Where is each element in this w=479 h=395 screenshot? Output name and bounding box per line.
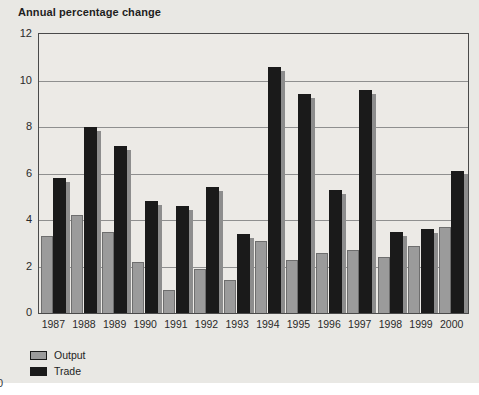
trade-bar-1995: [298, 94, 311, 313]
trade-bar-1998: [390, 232, 403, 313]
output-bar-2000: [439, 227, 451, 313]
trade-bar-1993: [237, 234, 250, 313]
plot-area: [38, 33, 469, 314]
trade-bar-1989: [114, 146, 127, 313]
legend: Output Trade: [30, 349, 86, 381]
chart-title: Annual percentage change: [18, 6, 161, 18]
y-tick-label-6: 6: [4, 167, 32, 179]
trade-bar-shadow: [189, 210, 193, 313]
trade-swatch-icon: [30, 367, 47, 376]
x-tick-label-2000: 2000: [436, 318, 468, 330]
output-bar-1987: [41, 236, 53, 313]
x-tick-label-1997: 1997: [344, 318, 376, 330]
output-bar-1988: [71, 215, 83, 313]
trade-bar-shadow: [342, 194, 346, 313]
trade-bar-shadow: [372, 94, 376, 313]
trade-bar-1997: [359, 90, 372, 313]
y-tick-label-10: 10: [4, 74, 32, 86]
output-swatch-icon: [30, 351, 47, 360]
output-bar-1997: [347, 250, 359, 313]
gridline-8: [39, 127, 468, 128]
trade-bar-1992: [206, 187, 219, 313]
trade-bar-1994: [268, 67, 281, 313]
x-tick-label-1988: 1988: [68, 318, 100, 330]
trade-bar-shadow: [250, 238, 254, 313]
y-tick-label-4: 4: [4, 213, 32, 225]
legend-label-output: Output: [54, 349, 86, 361]
gridline-6: [39, 174, 468, 175]
trade-bar-1987: [53, 178, 66, 313]
trade-bar-shadow: [158, 205, 162, 313]
legend-label-trade: Trade: [54, 365, 81, 377]
y-tick-label-0: 0: [4, 306, 32, 318]
trade-bar-shadow: [281, 71, 285, 313]
x-tick-label-1996: 1996: [313, 318, 345, 330]
x-tick-label-1987: 1987: [37, 318, 69, 330]
x-tick-label-1998: 1998: [374, 318, 406, 330]
trade-bar-1999: [421, 229, 434, 313]
output-bar-1999: [408, 246, 420, 313]
trade-bar-shadow: [127, 150, 131, 313]
trade-bar-shadow: [219, 191, 223, 313]
trade-bar-1988: [84, 127, 97, 313]
x-tick-label-1991: 1991: [160, 318, 192, 330]
x-tick-label-1989: 1989: [99, 318, 131, 330]
x-tick-label-1992: 1992: [191, 318, 223, 330]
output-bar-1990: [132, 262, 144, 313]
legend-item-output: Output: [30, 349, 86, 361]
output-bar-1998: [378, 257, 390, 313]
page-number-artifact: 0: [0, 377, 3, 389]
output-bar-1989: [102, 232, 114, 313]
trade-bar-shadow: [434, 233, 438, 313]
y-tick-label-2: 2: [4, 260, 32, 272]
output-bar-1991: [163, 290, 175, 313]
trade-bar-1990: [145, 201, 158, 313]
gridline-10: [39, 81, 468, 82]
trade-bar-shadow: [66, 182, 70, 313]
trade-bar-1991: [176, 206, 189, 313]
output-bar-1996: [316, 253, 328, 313]
trade-bar-shadow: [97, 131, 101, 313]
output-bar-1993: [224, 280, 236, 313]
x-tick-label-1999: 1999: [405, 318, 437, 330]
legend-item-trade: Trade: [30, 365, 86, 377]
output-bar-1994: [255, 241, 267, 313]
x-tick-label-1990: 1990: [129, 318, 161, 330]
x-tick-label-1995: 1995: [282, 318, 314, 330]
trade-bar-shadow: [311, 98, 315, 313]
x-tick-label-1993: 1993: [221, 318, 253, 330]
trade-bar-1996: [329, 190, 342, 313]
trade-bar-shadow: [403, 236, 407, 313]
x-tick-label-1994: 1994: [252, 318, 284, 330]
gridline-4: [39, 220, 468, 221]
y-tick-label-12: 12: [4, 27, 32, 39]
chart-panel: Annual percentage change 024681012 19871…: [0, 0, 479, 383]
output-bar-1995: [286, 260, 298, 313]
trade-bar-2000: [451, 171, 464, 313]
trade-bar-shadow: [464, 175, 468, 313]
y-tick-label-8: 8: [4, 120, 32, 132]
output-bar-1992: [194, 269, 206, 313]
